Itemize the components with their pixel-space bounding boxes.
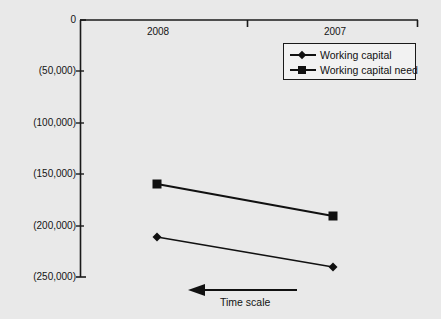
legend-label: Working capital need [316,65,418,76]
chart-container: 0 (50,000) (100,000) (150,000) (200,000)… [0,0,441,319]
data-point-need-2007 [329,212,338,221]
data-point-capital-2008 [153,233,162,242]
legend-item-working-capital: Working capital [290,48,392,62]
legend: Working capital Working capital need [283,43,416,80]
series-line-working-capital [157,237,333,267]
legend-diamond-marker-icon [290,49,316,61]
time-scale-arrow-head-icon [188,284,205,296]
legend-label: Working capital [316,50,392,61]
series-line-working-capital-need [157,184,333,216]
legend-item-working-capital-need: Working capital need [290,63,418,77]
legend-square-marker-icon [290,64,316,76]
data-point-capital-2007 [329,263,338,272]
time-scale-label: Time scale [220,297,270,308]
data-point-need-2008 [153,180,162,189]
